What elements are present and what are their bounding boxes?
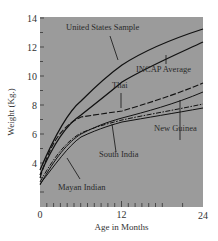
label-south-india: South India (99, 149, 139, 159)
y-tick-14: 14 (27, 13, 37, 24)
label-united-states-sample: United States Sample (66, 22, 139, 32)
x-tick-24: 24 (198, 210, 208, 221)
weight-growth-chart: United States Sample INCAP Average Thai … (0, 0, 218, 241)
x-tick-12: 12 (117, 209, 127, 220)
y-tick-10: 10 (27, 71, 37, 82)
x-axis-title: Age in Months (95, 222, 149, 232)
y-tick-12: 12 (27, 42, 37, 53)
label-new-guinea: New Guinea (154, 123, 197, 133)
label-thai: Thai (112, 80, 128, 90)
y-axis-title: Weight (Kg.) (6, 88, 16, 135)
y-tick-6: 6 (32, 129, 37, 140)
x-tick-0: 0 (38, 209, 43, 220)
label-incap-average: INCAP Average (136, 64, 191, 74)
y-tick-4: 4 (32, 158, 37, 169)
y-tick-8: 8 (32, 100, 37, 111)
label-mayan-indian: Mayan Indian (58, 182, 106, 192)
